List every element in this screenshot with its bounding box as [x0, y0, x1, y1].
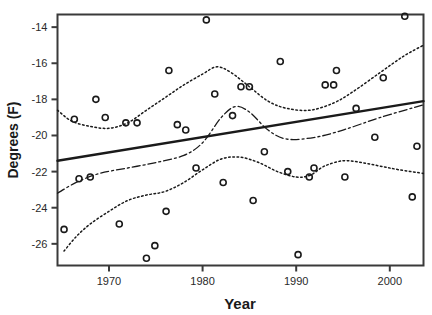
x-tick-label: 1980 — [190, 275, 214, 287]
scatter-plot: -14-16-18-20-22-24-26 1970198019902000 Y… — [0, 0, 432, 315]
y-tick-label: -20 — [32, 129, 48, 141]
y-axis-title: Degrees (F) — [5, 101, 21, 178]
chart-figure: -14-16-18-20-22-24-26 1970198019902000 Y… — [0, 0, 432, 315]
x-tick-label: 1970 — [97, 275, 121, 287]
y-tick-label: -26 — [32, 238, 48, 250]
y-tick-label: -14 — [32, 21, 48, 33]
y-tick-label: -24 — [32, 202, 48, 214]
y-tick-label: -16 — [32, 57, 48, 69]
y-tick-label: -18 — [32, 93, 48, 105]
x-tick-label: 2000 — [378, 275, 402, 287]
y-tick-label: -22 — [32, 166, 48, 178]
chart-background — [0, 0, 432, 315]
x-tick-label: 1990 — [284, 275, 308, 287]
x-axis-title: Year — [224, 295, 256, 312]
